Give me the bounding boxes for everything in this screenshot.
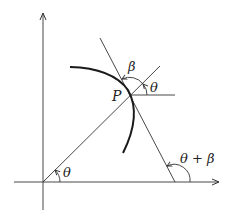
beta-arc: [122, 77, 143, 84]
polar-tangent-diagram: θ θ β θ + β P: [0, 0, 232, 218]
theta-plus-beta-label: θ + β: [180, 151, 215, 166]
polar-curve: [70, 67, 134, 153]
theta-label-p: θ: [150, 80, 158, 95]
tangent-line: [100, 38, 175, 182]
beta-label: β: [127, 59, 136, 74]
point-p-label: P: [111, 88, 122, 104]
theta-arc-origin: [55, 170, 60, 182]
theta-arc-p: [143, 84, 147, 95]
theta-label-origin: θ: [63, 165, 71, 180]
